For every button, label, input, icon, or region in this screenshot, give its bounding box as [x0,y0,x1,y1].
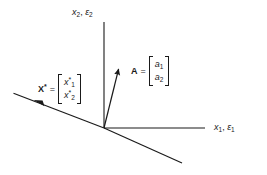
vector-A-component-2-subscript: 2 [160,76,164,83]
vector-X-star-asterisk: * [44,83,47,90]
oblique-axis-line [104,128,182,163]
vector-X-star-equals-sign: = [50,84,55,94]
vector-diagram-figure: x2, ε2 x1, ε1 A = a1 a2 X* = x*1 x*2 [0,0,267,175]
vector-X-star-component-2-subscript: 2 [71,94,75,101]
vector-X-star-expression: X* = x*1 x*2 [38,74,81,104]
vector-A-line [104,69,119,128]
x2-axis-label-variable: x [72,7,77,17]
vector-X-star-matrix: x*1 x*2 [58,74,81,104]
vector-A-label: A [131,66,138,76]
vector-A-expression: A = a1 a2 [131,56,169,86]
x1-axis-label-variable-subscript: 1 [219,126,223,133]
vector-A-component-1-subscript: 1 [160,63,164,70]
x1-axis-label-epsilon-subscript: 1 [231,126,235,133]
vector-A-matrix: a1 a2 [149,56,170,86]
vector-A-component-1: a1 [154,58,165,71]
x2-axis-label-variable-subscript: 2 [77,11,81,18]
x1-axis-label: x1, ε1 [214,123,235,132]
x2-axis-label: x2, ε2 [72,8,93,17]
vector-A-component-2: a2 [154,71,165,84]
vector-X-star-label: X* [38,84,47,94]
vector-X-star-component-1: x*1 [63,76,76,89]
x1-axis-label-variable: x [214,122,219,132]
vector-A-equals-sign: = [141,66,146,76]
vector-X-star-component-2: x*2 [63,89,76,102]
x2-axis-label-epsilon-subscript: 2 [89,11,93,18]
vector-X-star-component-1-subscript: 1 [71,81,75,88]
